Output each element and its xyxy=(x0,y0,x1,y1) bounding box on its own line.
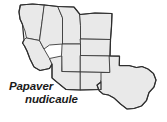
state-montana xyxy=(80,13,112,40)
state-wyoming xyxy=(81,39,111,56)
species-epithet-label: nudicaule xyxy=(9,93,119,106)
state-utah xyxy=(62,44,81,72)
species-genus-label: Papaver xyxy=(9,80,119,93)
state-colorado xyxy=(81,56,111,73)
species-distribution-figure: Papaver nudicaule xyxy=(0,0,167,122)
species-name-caption: Papaver nudicaule xyxy=(9,80,119,106)
